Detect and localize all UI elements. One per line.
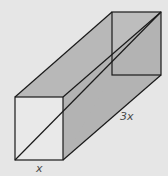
prism-diagram: 3x x (0, 0, 168, 176)
length-label: 3x (120, 111, 134, 122)
prism-drawing (0, 0, 168, 176)
front-face (15, 97, 63, 160)
width-label: x (36, 163, 43, 174)
